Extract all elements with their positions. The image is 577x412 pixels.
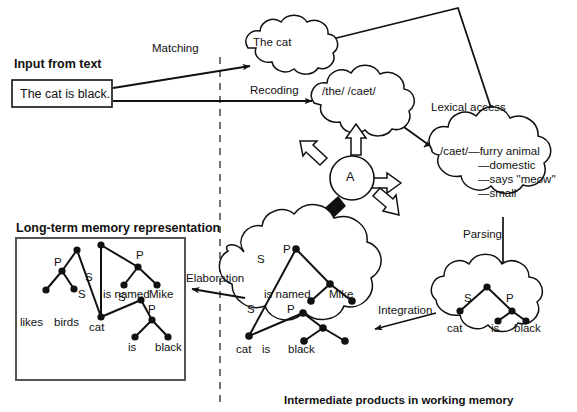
label-elaboration: Elaboration [186,272,244,284]
ltm-label-s-left: S [78,288,86,300]
diagram-canvas: Input from text The cat is black. Matchi… [0,0,577,412]
lexicon-feature-meow: —says ''meow'' [478,173,556,185]
activation-node-label: A [346,170,354,184]
label-parsing: Parsing [463,228,502,240]
wm-terminal-cat: cat [236,343,251,355]
parsed-terminal-is: is [491,322,499,334]
label-matching: Matching [152,42,199,54]
wm-terminal-black: black [288,343,315,355]
ltm-label-p-up: P [136,249,144,261]
word-cloud-text: The cat [253,36,291,48]
input-heading: Input from text [14,57,102,71]
lexicon-feature-small: —small [478,187,516,199]
ltm-terminal-birds: birds [54,316,79,328]
ltm-terminal-cat: cat [89,321,104,333]
ltm-terminal-mike: Mike [149,288,173,300]
wm-terminal-is-named: is named [264,288,311,300]
ltm-heading: Long-term memory representation [16,221,220,235]
lexicon-feature-domestic: —domestic [478,159,536,171]
input-sentence: The cat is black. [20,87,110,101]
wm-terminal-is: is [262,343,270,355]
wm-label-s2: S [247,303,255,315]
wm-label-s1: S [257,253,265,265]
parsed-label-s: S [464,292,472,304]
label-lexical-access: Lexical access [431,101,506,113]
ltm-label-p-right: P [148,303,156,315]
parsed-terminal-cat: cat [447,322,462,334]
wm-terminal-mike: Mike [329,288,353,300]
ltm-label-p-left: P [54,256,62,268]
wm-label-p2: P [287,303,295,315]
wm-label-p1: P [283,243,291,255]
label-recoding: Recoding [250,84,299,96]
lexicon-entry: /caet/—furry animal [440,145,540,157]
parsed-label-p: P [506,292,514,304]
matching-arrow [113,66,250,88]
label-integration: Integration [378,304,432,316]
phoneme-cloud [311,65,414,136]
ltm-terminal-black: black [155,341,182,353]
parsed-terminal-black: black [514,322,541,334]
ltm-terminal-likes: likes [20,316,43,328]
ltm-terminal-is: is [128,341,136,353]
phoneme-cloud-text: /the/ /caet/ [322,85,376,97]
ltm-terminal-is-named: is named [103,288,150,300]
ltm-box [16,238,185,380]
diagram-caption: Intermediate products in working memory [284,394,513,406]
parsed-cloud [431,254,542,331]
ltm-label-s-up: S [85,271,93,283]
